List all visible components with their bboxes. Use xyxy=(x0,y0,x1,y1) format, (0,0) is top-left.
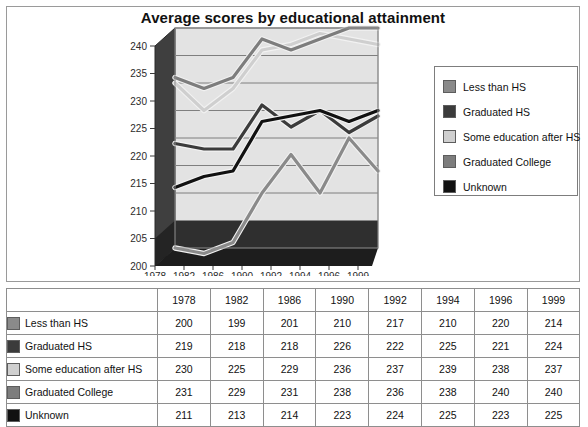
table-row: Graduated College23122923123823623824024… xyxy=(7,381,580,404)
table-cell: 224 xyxy=(369,404,422,427)
table-cell: 236 xyxy=(369,381,422,404)
table-cell: 225 xyxy=(421,404,474,427)
table-cell: 210 xyxy=(421,312,474,335)
line-chart-plot: 2002052102152202252302352401978198219861… xyxy=(118,24,393,276)
table-cell: 214 xyxy=(263,404,316,427)
table-cell: 226 xyxy=(316,335,369,358)
table-row-header: Some education after HS xyxy=(7,358,158,381)
table-column-header: 1992 xyxy=(369,289,422,312)
table-column-header: 1999 xyxy=(527,289,580,312)
table-column-header: 1994 xyxy=(421,289,474,312)
legend-item-label: Graduated HS xyxy=(463,106,530,118)
legend-item-label: Unknown xyxy=(463,181,507,193)
table-cell: 237 xyxy=(369,358,422,381)
table-cell: 200 xyxy=(158,312,211,335)
series-swatch-icon xyxy=(7,317,20,330)
table-column-header: 1990 xyxy=(316,289,369,312)
x-axis-tick-label: 1978 xyxy=(144,271,167,276)
table-cell: 238 xyxy=(421,381,474,404)
table-row-label: Graduated HS xyxy=(25,340,92,352)
table-cell: 201 xyxy=(263,312,316,335)
legend-item: Some education after HS xyxy=(443,124,577,149)
y-axis-tick-label: 225 xyxy=(130,123,147,134)
table-cell: 236 xyxy=(316,358,369,381)
legend-item: Graduated College xyxy=(443,149,577,174)
legend-swatch-icon xyxy=(443,130,456,143)
table-row: Some education after HS23022522923623723… xyxy=(7,358,580,381)
legend-item: Unknown xyxy=(443,174,577,199)
table-cell: 240 xyxy=(527,381,580,404)
table-corner-cell xyxy=(7,289,158,312)
series-swatch-icon xyxy=(7,386,20,399)
legend-swatch-icon xyxy=(443,80,456,93)
table-cell: 225 xyxy=(210,358,263,381)
y-axis-tick-label: 230 xyxy=(130,96,147,107)
table-cell: 240 xyxy=(474,381,527,404)
table-column-header: 1986 xyxy=(263,289,316,312)
x-axis-tick-label: 1992 xyxy=(260,271,283,276)
table-cell: 218 xyxy=(263,335,316,358)
table-cell: 239 xyxy=(421,358,474,381)
legend-item: Less than HS xyxy=(443,74,577,99)
table-cell: 223 xyxy=(474,404,527,427)
legend-swatch-icon xyxy=(443,105,456,118)
x-axis-tick-label: 1994 xyxy=(289,271,312,276)
table-row: Graduated HS219218218226222225221224 xyxy=(7,335,580,358)
table-cell: 218 xyxy=(210,335,263,358)
table-row: Unknown211213214223224225223225 xyxy=(7,404,580,427)
legend-item-label: Some education after HS xyxy=(463,131,580,143)
table-cell: 211 xyxy=(158,404,211,427)
x-axis-tick-label: 1982 xyxy=(173,271,196,276)
legend-item-label: Graduated College xyxy=(463,156,551,168)
data-table: 1978 1982 1986 1990 1992 1994 1996 1999 … xyxy=(6,288,580,427)
y-axis-tick-label: 200 xyxy=(130,261,147,272)
table-column-header: 1982 xyxy=(210,289,263,312)
table-row-label: Graduated College xyxy=(25,386,113,398)
table-cell: 217 xyxy=(369,312,422,335)
table-cell: 225 xyxy=(527,404,580,427)
table-cell: 221 xyxy=(474,335,527,358)
chart-legend: Less than HS Graduated HS Some education… xyxy=(434,66,578,196)
table-cell: 219 xyxy=(158,335,211,358)
x-axis-tick-label: 1986 xyxy=(202,271,225,276)
table-column-header: 1996 xyxy=(474,289,527,312)
series-swatch-icon xyxy=(7,340,20,353)
chart-svg: 2002052102152202252302352401978198219861… xyxy=(118,24,393,276)
y-axis-tick-label: 240 xyxy=(130,41,147,52)
table-cell: 231 xyxy=(158,381,211,404)
table-row: Less than HS200199201210217210220214 xyxy=(7,312,580,335)
y-axis-tick-label: 205 xyxy=(130,233,147,244)
table-cell: 229 xyxy=(263,358,316,381)
table-cell: 214 xyxy=(527,312,580,335)
table-column-header: 1978 xyxy=(158,289,211,312)
legend-swatch-icon xyxy=(443,155,456,168)
table-cell: 223 xyxy=(316,404,369,427)
table-cell: 222 xyxy=(369,335,422,358)
y-axis-tick-label: 210 xyxy=(130,206,147,217)
x-axis-tick-label: 1999 xyxy=(347,271,370,276)
legend-item: Graduated HS xyxy=(443,99,577,124)
x-axis-tick-label: 1996 xyxy=(318,271,341,276)
table-cell: 237 xyxy=(527,358,580,381)
table-row-header: Unknown xyxy=(7,404,158,427)
legend-item-label: Less than HS xyxy=(463,81,526,93)
table-cell: 210 xyxy=(316,312,369,335)
table-cell: 231 xyxy=(263,381,316,404)
table-cell: 238 xyxy=(474,358,527,381)
table-header-row: 1978 1982 1986 1990 1992 1994 1996 1999 xyxy=(7,289,580,312)
y-axis-tick-label: 220 xyxy=(130,151,147,162)
table-cell: 225 xyxy=(421,335,474,358)
table-row-label: Some education after HS xyxy=(25,363,142,375)
table-row-label: Unknown xyxy=(25,409,69,421)
table-row-header: Graduated College xyxy=(7,381,158,404)
series-swatch-icon xyxy=(7,409,20,422)
table-cell: 220 xyxy=(474,312,527,335)
y-axis-tick-label: 215 xyxy=(130,178,147,189)
table-cell: 230 xyxy=(158,358,211,381)
table-cell: 238 xyxy=(316,381,369,404)
table-row-header: Graduated HS xyxy=(7,335,158,358)
y-axis-tick-label: 235 xyxy=(130,68,147,79)
table-cell: 224 xyxy=(527,335,580,358)
table-cell: 199 xyxy=(210,312,263,335)
